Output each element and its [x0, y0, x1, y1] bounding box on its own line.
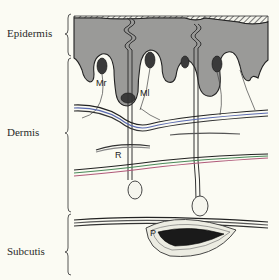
skin-diagram [0, 0, 279, 280]
label-mr: Mr [96, 78, 107, 88]
label-ml: Ml [140, 88, 150, 98]
label-dermis: Dermis [7, 126, 39, 138]
label-r: R [115, 150, 122, 160]
layer-brackets [65, 14, 71, 275]
fiber-bundles [74, 105, 268, 228]
label-epidermis: Epidermis [7, 27, 52, 39]
label-subcutis: Subcutis [7, 245, 45, 257]
label-p: P [150, 228, 156, 238]
